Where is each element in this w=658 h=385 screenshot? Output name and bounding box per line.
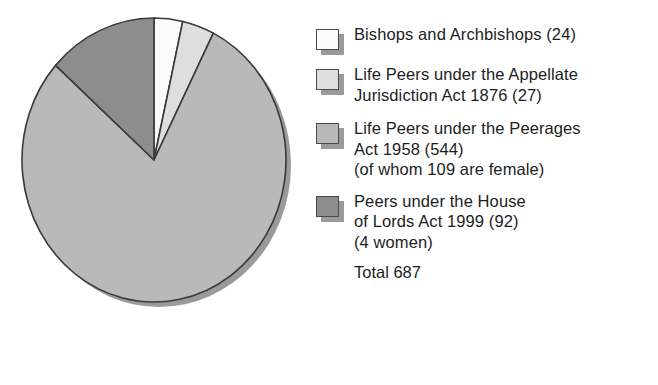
legend-item[interactable]: Life Peers under the AppellateJurisdicti…	[316, 64, 658, 105]
legend-item-line: Life Peers under the Appellate	[354, 64, 658, 85]
legend-item[interactable]: Bishops and Archbishops (24)	[316, 24, 658, 50]
legend-swatch-cell	[316, 24, 354, 50]
legend-item-line: Act 1958 (544)	[354, 139, 658, 160]
legend-swatch-cell	[316, 191, 354, 217]
pie-svg	[0, 0, 330, 385]
legend-items: Bishops and Archbishops (24)Life Peers u…	[316, 24, 658, 252]
legend-item-label: Peers under the Houseof Lords Act 1999 (…	[354, 191, 658, 253]
legend-total-row: Total 687	[316, 262, 658, 283]
legend-total-label: Total 687	[354, 262, 421, 283]
legend-item-line: of Lords Act 1999 (92)	[354, 211, 658, 232]
legend-swatch-appellate	[316, 69, 339, 90]
legend-swatch-cell	[316, 64, 354, 90]
legend-swatch-cell	[316, 118, 354, 144]
legend-swatch-bishops	[316, 29, 339, 50]
legend-item-line: Peers under the House	[354, 191, 658, 212]
legend-item-line: Bishops and Archbishops (24)	[354, 24, 658, 45]
legend-item-line: (4 women)	[354, 232, 658, 253]
legend-total-spacer	[316, 262, 354, 283]
legend-swatch-hol1999	[316, 196, 339, 217]
legend-item-label: Life Peers under the PeeragesAct 1958 (5…	[354, 118, 658, 180]
legend-swatch-peerages	[316, 123, 339, 144]
legend-item[interactable]: Life Peers under the PeeragesAct 1958 (5…	[316, 118, 658, 180]
pie-chart-figure: Bishops and Archbishops (24)Life Peers u…	[0, 0, 658, 385]
legend-item-line: Jurisdiction Act 1876 (27)	[354, 85, 658, 106]
legend-item-line: Life Peers under the Peerages	[354, 118, 658, 139]
legend-item[interactable]: Peers under the Houseof Lords Act 1999 (…	[316, 191, 658, 253]
pie-slices	[22, 18, 286, 302]
legend-item-line: (of whom 109 are female)	[354, 159, 658, 180]
legend-item-label: Life Peers under the AppellateJurisdicti…	[354, 64, 658, 105]
pie-chart-area	[0, 0, 330, 385]
legend-item-label: Bishops and Archbishops (24)	[354, 24, 658, 45]
legend: Bishops and Archbishops (24)Life Peers u…	[316, 24, 658, 283]
